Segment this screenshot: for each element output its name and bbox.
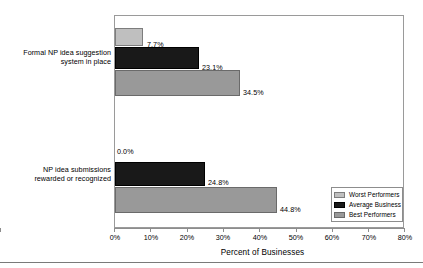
x-axis-label-70: 70%: [352, 233, 386, 242]
bar-best-performers-group-1: [115, 187, 277, 213]
category-label-np-idea-submissions-rewarded: NP idea submissions rewarded or recogniz…: [8, 165, 111, 183]
bar-best-performers-group-0: [115, 70, 240, 96]
legend-label-average-business: Average Business: [349, 201, 401, 208]
legend-swatch-worst-performers: [334, 192, 345, 198]
x-axis-tick-50: [296, 228, 297, 232]
x-axis-label-40: 40%: [243, 233, 277, 242]
legend-label-worst-performers: Worst Performers: [349, 191, 400, 198]
x-axis-tick-20: [187, 228, 188, 232]
legend-label-best-performers: Best Performers: [349, 211, 396, 218]
legend-item-worst-performers: Worst Performers: [334, 190, 400, 199]
legend-item-best-performers: Best Performers: [334, 210, 400, 219]
legend-swatch-best-performers: [334, 212, 345, 218]
legend: Worst Performers Average Business Best P…: [331, 187, 403, 222]
x-axis-label-10: 10%: [134, 233, 168, 242]
bar-worst-performers-group-0: [115, 28, 143, 46]
x-axis-title-wrapper: Percent of Businesses: [0, 248, 423, 258]
x-axis-label-0: 0%: [98, 233, 132, 242]
bar-value-average-business-group-1: 24.8%: [208, 179, 229, 187]
x-axis-title: Percent of Businesses: [119, 248, 305, 258]
x-axis-tick-70: [368, 228, 369, 232]
x-axis-tick-10-helper: [0, 228, 1, 232]
category-label-formal-np-idea-suggestion-system: Formal NP idea suggestion system in plac…: [8, 48, 111, 66]
bar-average-business-group-0: [115, 47, 199, 69]
legend-swatch-average-business: [334, 202, 345, 208]
bar-value-worst-performers-group-1: 0.0%: [117, 148, 134, 156]
legend-item-average-business: Average Business: [334, 200, 400, 209]
x-axis-tick-10: [150, 228, 151, 232]
bottom-divider: [0, 262, 423, 263]
x-axis-tick-40: [259, 228, 260, 232]
x-axis-label-60: 60%: [315, 233, 349, 242]
x-axis-tick-30: [223, 228, 224, 232]
x-axis-label-50: 50%: [279, 233, 313, 242]
bar-value-best-performers-group-0: 34.5%: [243, 89, 264, 97]
bar-average-business-group-1: [115, 162, 205, 186]
x-axis-label-30: 30%: [206, 233, 240, 242]
x-axis-label-80: 80%: [388, 233, 422, 242]
x-axis-tick-80: [404, 228, 405, 232]
x-axis-tick-0: [114, 228, 115, 232]
x-axis-tick-60: [332, 228, 333, 232]
x-axis-label-20: 20%: [170, 233, 204, 242]
bar-value-best-performers-group-1: 44.8%: [280, 206, 301, 214]
bar-chart: Formal NP idea suggestion system in plac…: [0, 0, 423, 268]
